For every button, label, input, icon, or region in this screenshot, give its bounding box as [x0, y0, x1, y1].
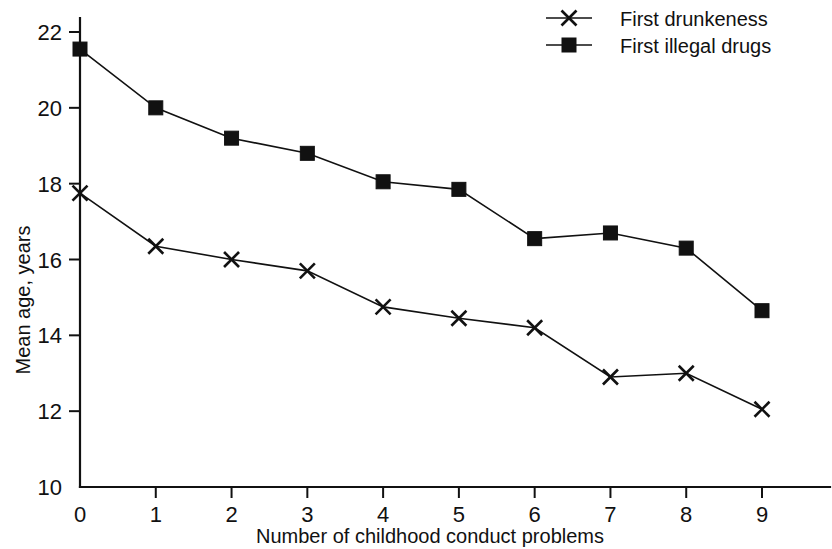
x-tick-label: 3: [301, 502, 313, 527]
y-tick-label: 22: [38, 20, 62, 45]
x-tick-label: 1: [150, 502, 162, 527]
y-tick-label: 18: [38, 172, 62, 197]
legend-marker-square: [562, 38, 576, 52]
data-point-square: [376, 175, 390, 189]
y-tick-label: 20: [38, 96, 62, 121]
data-point-square: [528, 232, 542, 246]
x-tick-label: 4: [377, 502, 389, 527]
x-tick-label: 5: [453, 502, 465, 527]
data-point-square: [755, 304, 769, 318]
y-tick-label: 12: [38, 399, 62, 424]
data-point-square: [73, 42, 87, 56]
data-point-square: [225, 131, 239, 145]
data-point-square: [452, 182, 466, 196]
line-chart: 10121416182022 0123456789 First drunkene…: [0, 0, 832, 549]
x-axis-title: Number of childhood conduct problems: [256, 525, 604, 547]
data-point-square: [603, 226, 617, 240]
chart-background: [0, 0, 832, 549]
y-tick-label: 16: [38, 248, 62, 273]
x-tick-label: 9: [756, 502, 768, 527]
legend-label: First illegal drugs: [620, 35, 771, 57]
data-point-square: [679, 241, 693, 255]
legend-label: First drunkeness: [620, 8, 768, 30]
x-tick-label: 0: [74, 502, 86, 527]
data-point-square: [149, 101, 163, 115]
y-axis-title: Mean age, years: [12, 226, 34, 375]
y-tick-label: 10: [38, 475, 62, 500]
chart-container: 10121416182022 0123456789 First drunkene…: [0, 0, 832, 549]
x-tick-label: 7: [604, 502, 616, 527]
data-point-square: [300, 146, 314, 160]
x-tick-label: 6: [529, 502, 541, 527]
x-tick-label: 8: [680, 502, 692, 527]
x-tick-label: 2: [225, 502, 237, 527]
y-tick-label: 14: [38, 323, 62, 348]
